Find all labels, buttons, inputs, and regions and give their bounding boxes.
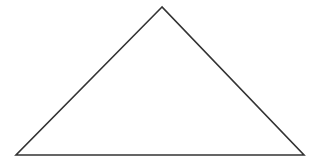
diagram-canvas [0,0,321,159]
triangle-shape [16,7,304,155]
